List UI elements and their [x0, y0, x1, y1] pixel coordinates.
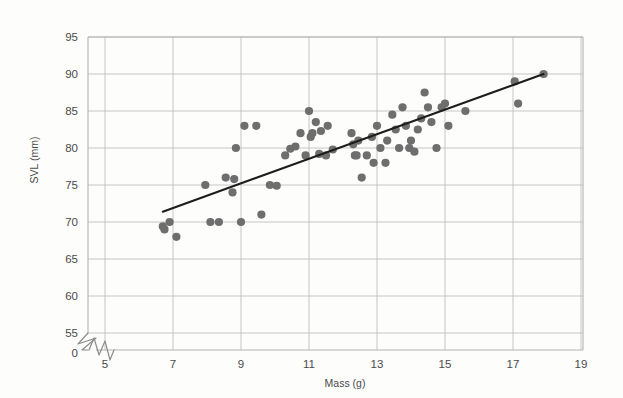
y-tick-80: 80	[65, 142, 78, 154]
y-tick-70: 70	[65, 216, 78, 228]
data-point	[291, 142, 299, 150]
data-point	[358, 174, 366, 182]
y-tick-60: 60	[65, 290, 78, 302]
y-axis-title: SVL (mm)	[28, 137, 40, 184]
data-point	[273, 182, 281, 190]
y-axis-break-icon	[78, 333, 96, 350]
data-point	[444, 122, 452, 130]
data-point	[257, 211, 265, 219]
x-tick-11: 11	[303, 358, 315, 370]
data-point	[308, 129, 316, 137]
data-point	[395, 144, 403, 152]
data-point	[347, 129, 355, 137]
data-point	[317, 127, 325, 135]
plot-frame	[88, 37, 583, 350]
y-tick-90: 90	[65, 68, 78, 80]
data-point	[514, 100, 522, 108]
data-point	[353, 151, 361, 159]
data-point	[296, 129, 304, 137]
data-point	[160, 225, 168, 233]
data-point	[398, 103, 406, 111]
trendline-layer	[163, 74, 544, 212]
vertical-gridlines	[105, 37, 581, 350]
y-tick-85: 85	[65, 105, 78, 117]
data-point	[461, 107, 469, 115]
data-point	[232, 144, 240, 152]
y-tick-55: 55	[65, 327, 78, 339]
x-tick-17: 17	[507, 358, 520, 370]
data-point	[441, 100, 449, 108]
x-tick-7: 7	[170, 358, 176, 370]
data-point	[166, 218, 174, 226]
data-point	[312, 118, 320, 126]
horizontal-gridlines	[88, 37, 583, 333]
data-point	[383, 137, 391, 145]
y-tick-95: 95	[65, 31, 78, 43]
data-point	[206, 218, 214, 226]
x-tick-19: 19	[575, 358, 588, 370]
data-point	[407, 137, 415, 145]
data-point	[240, 122, 248, 130]
data-point	[172, 233, 180, 241]
data-point	[230, 175, 238, 183]
axis-break-marks	[78, 333, 114, 360]
data-point	[281, 151, 289, 159]
x-axis-break-icon	[89, 338, 114, 360]
data-point	[370, 159, 378, 167]
data-point	[414, 125, 422, 133]
x-axis-title: Mass (g)	[325, 377, 366, 389]
data-point	[376, 144, 384, 152]
regression-line	[163, 74, 544, 212]
y-tick-labels: 95 90 85 80 75 70 65 60 55 0	[65, 31, 78, 359]
data-point	[324, 122, 332, 130]
data-points-layer	[159, 70, 548, 241]
data-point	[252, 122, 260, 130]
x-tick-15: 15	[439, 358, 452, 370]
data-point	[432, 144, 440, 152]
x-tick-labels: 5 7 9 11 13 15 17 19	[102, 358, 588, 370]
data-point	[222, 174, 230, 182]
data-point	[201, 181, 209, 189]
data-point	[363, 151, 371, 159]
data-point	[427, 118, 435, 126]
y-tick-65: 65	[65, 253, 78, 265]
data-point	[381, 159, 389, 167]
data-point	[305, 107, 313, 115]
data-point	[388, 111, 396, 119]
data-point	[228, 188, 236, 196]
data-point	[215, 218, 223, 226]
x-tick-9: 9	[238, 358, 244, 370]
x-tick-5: 5	[102, 358, 108, 370]
scatter-plot: 95 90 85 80 75 70 65 60 55 0 5 7 9 11 13…	[0, 0, 623, 398]
data-point	[424, 103, 432, 111]
x-tick-13: 13	[371, 358, 384, 370]
y-tick-75: 75	[65, 179, 78, 191]
y-tick-origin: 0	[72, 347, 78, 359]
data-point	[421, 88, 429, 96]
data-point	[237, 218, 245, 226]
data-point	[410, 148, 418, 156]
chart-figure: 95 90 85 80 75 70 65 60 55 0 5 7 9 11 13…	[0, 0, 623, 398]
data-point	[373, 122, 381, 130]
